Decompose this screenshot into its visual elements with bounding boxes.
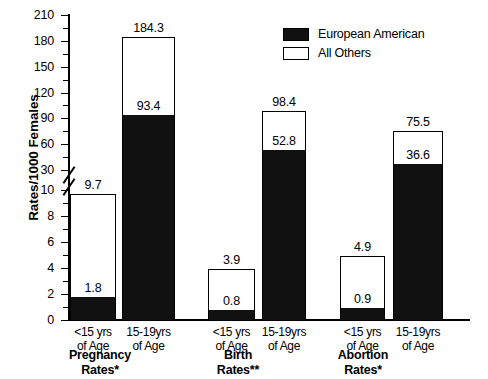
bar-ea-value-label: 36.6 [383,149,453,162]
legend-swatch-black-icon [283,28,309,41]
y-tick-90 [61,118,68,119]
y-tick-label-2: 2 [18,288,54,301]
y-tick-label-210: 210 [18,9,54,22]
bar-total-value-label: 184.3 [114,22,184,35]
x-group-label-line2: Rates* [298,363,428,378]
y-tick-label-8: 8 [18,210,54,223]
y-tick-1 [63,307,68,308]
y-tick-label-60: 60 [18,138,54,151]
y-tick-150 [61,67,68,68]
x-group-label-line1: Abortion [298,348,428,363]
bar-0-1 [122,37,175,321]
y-tick-7 [63,229,68,230]
x-group-label-1: BirthRates** [173,348,303,378]
legend-label-european-american: European American [318,28,424,41]
x-group-label-line1: Birth [173,348,303,363]
bar-ea-value-label: 0.9 [328,293,398,306]
bar-total-value-label: 9.7 [58,179,128,192]
bar-ea-value-label: 52.8 [249,135,319,148]
legend-item-european-american: European American [283,26,424,43]
x-category-label-line1: 15-19yrs [245,325,323,339]
bar-ea-value-label: 1.8 [58,282,128,295]
bar-ea-value-label: 0.8 [197,295,267,308]
x-group-label-line2: Rates** [173,363,303,378]
bar-segment-european-american [394,164,442,320]
bar-total-value-label: 4.9 [328,241,398,254]
x-group-label-line2: Rates* [35,363,165,378]
bar-segment-european-american [341,308,384,320]
y-tick-label-150: 150 [18,61,54,74]
bar-segment-european-american [71,297,115,320]
bar-2-0 [340,256,385,321]
y-tick-label-180: 180 [18,35,54,48]
x-group-label-line1: Pregnancy [35,348,165,363]
y-tick-30 [61,170,68,171]
bar-chart: Rates/1000 Females 024681030609012015018… [0,0,488,379]
x-group-label-0: PregnancyRates* [35,348,165,378]
bar-0-0 [70,194,116,321]
legend-item-all-others: All Others [283,45,424,62]
legend: European American All Others [283,26,424,64]
x-group-label-2: AbortionRates* [298,348,428,378]
y-tick-45 [63,157,68,158]
y-tick-60 [61,144,68,145]
y-tick-120 [61,93,68,94]
y-tick-195 [63,28,68,29]
y-tick-label-120: 120 [18,87,54,100]
y-tick-label-4: 4 [18,262,54,275]
y-tick-4 [61,268,68,269]
legend-swatch-white-icon [283,47,309,60]
y-tick-75 [63,131,68,132]
bar-total-value-label: 75.5 [383,116,453,129]
bar-segment-european-american [209,310,254,320]
y-tick-180 [61,41,68,42]
y-tick-165 [63,54,68,55]
y-tick-5 [63,255,68,256]
bar-total-value-label: 3.9 [197,254,267,267]
y-tick-105 [63,105,68,106]
y-tick-8 [61,216,68,217]
y-tick-135 [63,80,68,81]
y-tick-label-90: 90 [18,112,54,125]
legend-label-all-others: All Others [318,47,371,60]
bar-segment-european-american [263,150,305,320]
x-category-label-line1: 15-19yrs [110,325,188,339]
bar-total-value-label: 98.4 [249,96,319,109]
y-tick-9 [63,203,68,204]
y-tick-0 [61,320,68,321]
bar-segment-european-american [123,115,174,320]
y-tick-2 [61,294,68,295]
y-tick-label-30: 30 [18,164,54,177]
y-tick-label-6: 6 [18,236,54,249]
x-category-label-line1: 15-19yrs [379,325,457,339]
y-tick-210 [61,15,68,16]
y-tick-label-10: 10 [18,184,54,197]
y-tick-6 [61,242,68,243]
bar-ea-value-label: 93.4 [114,100,184,113]
y-tick-label-0: 0 [18,314,54,327]
